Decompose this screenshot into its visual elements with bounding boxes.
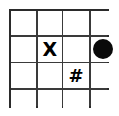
grid-cell-r3c2[interactable] [38, 63, 62, 88]
grid-cell-r1c3[interactable] [63, 11, 89, 35]
grid-cell-r4c4[interactable] [91, 90, 116, 115]
grid-cell-r1c4[interactable] [91, 11, 116, 35]
grid-cell-r2c4[interactable] [91, 37, 116, 62]
puzzle-grid: X # [9, 9, 109, 108]
hash-icon: # [68, 67, 83, 85]
grid-puzzle-container: X # [0, 0, 119, 116]
grid-cell-r2c1[interactable] [11, 37, 36, 62]
letter-x-icon: X [42, 40, 56, 59]
grid-cell-r3c4[interactable] [91, 63, 116, 88]
grid-cell-r2c3[interactable] [63, 37, 89, 62]
grid-cell-r4c2[interactable] [38, 90, 62, 115]
filled-circle-icon [93, 39, 113, 59]
grid-cell-r1c2[interactable] [38, 11, 62, 35]
grid-cell-r2c2[interactable]: X [38, 37, 62, 62]
grid-cell-r3c3[interactable]: # [63, 63, 89, 88]
grid-cell-r1c1[interactable] [11, 11, 36, 35]
grid-cell-r3c1[interactable] [11, 63, 36, 88]
grid-cell-r4c1[interactable] [11, 90, 36, 115]
grid-cell-r4c3[interactable] [63, 90, 89, 115]
